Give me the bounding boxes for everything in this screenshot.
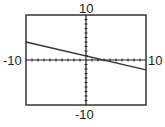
y-min-label: -10: [75, 108, 94, 121]
graph-window: 10 -10 -10 10: [0, 0, 165, 127]
x-min-label: -10: [3, 54, 22, 67]
y-max-label: 10: [79, 2, 93, 15]
x-max-label: 10: [148, 54, 162, 67]
